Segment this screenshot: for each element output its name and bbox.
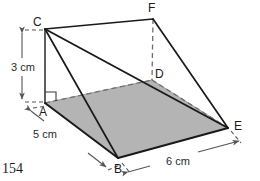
dimension-label-3cm: 3 cm bbox=[11, 62, 35, 73]
vertex-label-B: B bbox=[114, 163, 122, 175]
right-angle-marker-at-A bbox=[45, 92, 56, 101]
ext-line-B2 bbox=[122, 163, 131, 174]
hidden-edge-FD bbox=[152, 19, 153, 80]
edge-CF bbox=[45, 19, 153, 29]
vertex-label-C: C bbox=[33, 16, 42, 28]
vertex-label-A: A bbox=[39, 106, 47, 118]
vertex-label-F: F bbox=[148, 2, 155, 14]
page-number: 154 bbox=[2, 162, 23, 176]
vertex-label-E: E bbox=[234, 120, 242, 132]
vertex-label-D: D bbox=[155, 68, 164, 80]
dimension-label-5cm: 5 cm bbox=[33, 129, 57, 140]
dimension-label-6cm: 6 cm bbox=[166, 156, 190, 167]
shaded-base-face bbox=[45, 80, 228, 158]
